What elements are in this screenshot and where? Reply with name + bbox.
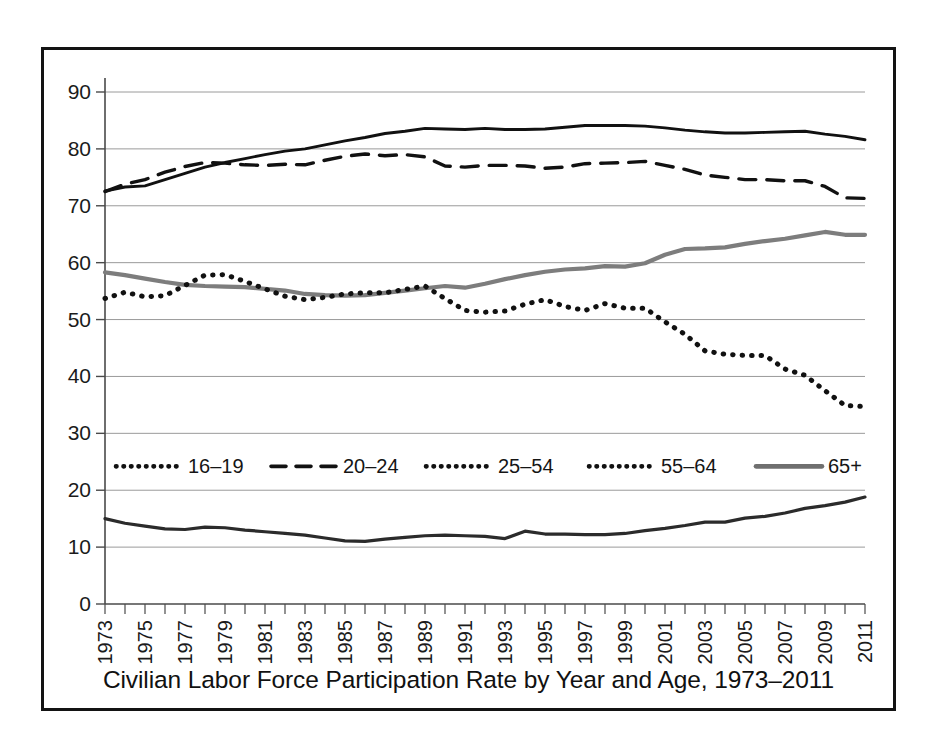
legend-label: 20–24 xyxy=(343,455,399,477)
x-tick-label: 1975 xyxy=(134,620,156,665)
y-tick-label: 0 xyxy=(79,592,91,615)
legend-item: 16–19 xyxy=(116,455,244,477)
legend-item: 25–54 xyxy=(426,455,554,477)
y-tick-label: 30 xyxy=(68,421,91,444)
x-tick-label: 2001 xyxy=(654,620,676,665)
x-tick-label: 1987 xyxy=(374,620,396,665)
y-tick-label: 60 xyxy=(68,251,91,274)
x-tick-label: 2003 xyxy=(694,620,716,665)
x-tick-label: 1995 xyxy=(534,620,556,665)
y-tick-label: 90 xyxy=(68,80,91,103)
series-line-65+ xyxy=(105,232,865,296)
x-tick-label: 1985 xyxy=(334,620,356,665)
x-tick-label: 1999 xyxy=(614,620,636,665)
figure-frame: 0102030405060708090197319751977197919811… xyxy=(41,47,896,711)
y-tick-label: 20 xyxy=(68,478,91,501)
x-tick-label: 1983 xyxy=(294,620,316,665)
x-tick-label: 1979 xyxy=(214,620,236,665)
x-tick-label: 2009 xyxy=(814,620,836,665)
legend-item: 20–24 xyxy=(271,455,399,477)
x-tick-label: 2007 xyxy=(774,620,796,665)
x-tick-label: 1977 xyxy=(174,620,196,665)
y-tick-label: 50 xyxy=(68,308,91,331)
legend-label: 25–54 xyxy=(498,455,554,477)
x-tick-label: 2005 xyxy=(734,620,756,665)
line-chart: 0102030405060708090197319751977197919811… xyxy=(44,50,893,708)
x-tick-label: 1989 xyxy=(414,620,436,665)
y-tick-label: 40 xyxy=(68,364,91,387)
x-tick-label: 1993 xyxy=(494,620,516,665)
y-tick-label: 80 xyxy=(68,137,91,160)
legend-label: 65+ xyxy=(828,455,862,477)
legend-label: 16–19 xyxy=(188,455,244,477)
legend-item: 55–64 xyxy=(589,455,717,477)
x-tick-label: 1997 xyxy=(574,620,596,665)
legend-label: 55–64 xyxy=(661,455,717,477)
x-tick-label: 2011 xyxy=(854,620,876,663)
x-tick-label: 1981 xyxy=(254,620,276,665)
legend-item: 65+ xyxy=(756,455,862,477)
y-tick-label: 10 xyxy=(68,535,91,558)
y-tick-label: 70 xyxy=(68,194,91,217)
chart-caption: Civilian Labor Force Participation Rate … xyxy=(44,666,893,694)
x-tick-label: 1991 xyxy=(454,620,476,665)
series-line-65+---- xyxy=(105,497,865,541)
series-line-55-64 xyxy=(105,275,865,407)
x-tick-label: 1973 xyxy=(94,620,116,665)
series-line-20-24 xyxy=(105,154,865,198)
